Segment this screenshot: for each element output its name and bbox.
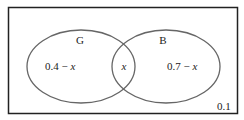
b-only-variable: x bbox=[191, 60, 197, 72]
set-g-label: G bbox=[76, 34, 84, 46]
b-only-region-value: 0.7 − x bbox=[167, 60, 197, 72]
venn-diagram: G B 0.4 − x x 0.7 − x 0.1 bbox=[0, 0, 244, 120]
b-only-number: 0.7 − bbox=[167, 60, 192, 72]
g-only-region-value: 0.4 − x bbox=[45, 60, 75, 72]
outside-region-value: 0.1 bbox=[217, 100, 231, 112]
g-only-variable: x bbox=[69, 60, 75, 72]
set-b-label: B bbox=[159, 34, 166, 46]
g-only-number: 0.4 − bbox=[45, 60, 70, 72]
intersection-value: x bbox=[121, 60, 127, 72]
